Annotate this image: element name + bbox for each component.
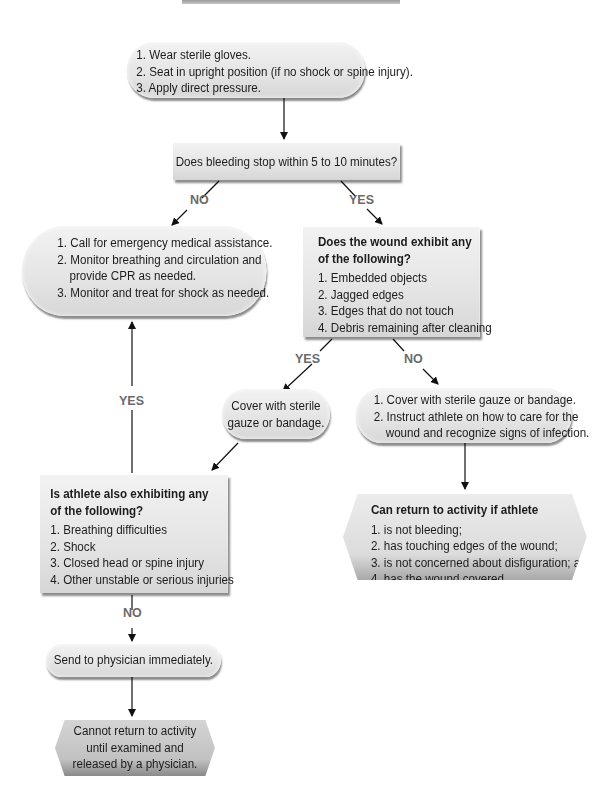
node-text: released by a physician. [55,756,215,773]
yes-label: YES [119,392,144,410]
question-title-line: Is athlete also exhibiting any [50,486,228,503]
condition-item: 2. has touching edges of the wound; [371,538,587,555]
node-text: gauze or bandage. [222,415,330,432]
step-item: 2. Instruct athlete on how to care for t… [374,409,572,426]
step-item: 2. Monitor breathing and circulation and [57,252,266,269]
step-item: 3. Monitor and treat for shock as needed… [57,285,266,302]
cover-instruct-node: 1. Cover with sterile gauze or bandage. … [356,388,572,443]
no-label: NO [123,606,142,620]
step-item: 3. Apply direct pressure. [136,80,355,97]
step-item: 1. Call for emergency medical assistance… [57,235,266,252]
send-physician-node: Send to physician immediately. [46,644,221,677]
symptom-item: 3. Closed head or spine injury [50,555,228,572]
criteria-item: 4. Debris remaining after cleaning [318,320,480,337]
cover-bandage-node: Cover with sterile gauze or bandage. [222,389,330,439]
question-title: Does the wound exhibit any of the follow… [318,234,480,267]
symptom-item: 2. Shock [50,539,228,556]
criteria-item: 1. Embedded objects [318,270,480,287]
question-title-line: Does the wound exhibit any [318,234,480,251]
start-steps-node: 1. Wear sterile gloves. 2. Seat in uprig… [127,42,365,98]
step-item: 2. Seat in upright position (if no shock… [136,64,355,81]
question-bleeding-stops: Does bleeding stop within 5 to 10 minute… [173,143,400,180]
no-label: NO [190,193,209,207]
node-text: Cannot return to activity [55,723,215,740]
criteria-item: 3. Edges that do not touch [318,303,480,320]
question-title-line: of the following? [318,251,480,268]
question-title: Is athlete also exhibiting any of the fo… [50,486,228,519]
question-text: Does bleeding stop within 5 to 10 minute… [176,155,398,169]
node-title: Can return to activity if athlete [371,502,587,519]
yes-label: YES [349,193,374,207]
emergency-node: 1. Call for emergency medical assistance… [22,226,267,316]
step-item: wound and recognize signs of infection. [374,425,572,442]
node-text: until examined and [55,740,215,757]
no-label: NO [404,352,423,366]
step-item: 1. Wear sterile gloves. [136,47,355,64]
criteria-item: 2. Jagged edges [318,287,480,304]
step-item: 1. Cover with sterile gauze or bandage. [374,392,572,409]
cannot-return-node: Cannot return to activity until examined… [55,720,215,776]
node-text: Cover with sterile [222,398,330,415]
node-text: Send to physician immediately. [54,653,213,667]
question-athlete-symptoms: Is athlete also exhibiting any of the fo… [40,475,228,593]
return-to-activity-node: Can return to activity if athlete 1. is … [343,494,587,580]
question-title-line: of the following? [50,503,228,520]
yes-label: YES [295,352,320,366]
question-wound-exhibits: Does the wound exhibit any of the follow… [303,227,480,337]
symptom-item: 1. Breathing difficulties [50,522,228,539]
symptom-item: 4. Other unstable or serious injuries [50,572,228,589]
step-item: provide CPR as needed. [57,268,266,285]
condition-item: 3. is not concerned about disfiguration;… [371,555,587,572]
condition-item: 1. is not bleeding; [371,522,587,539]
